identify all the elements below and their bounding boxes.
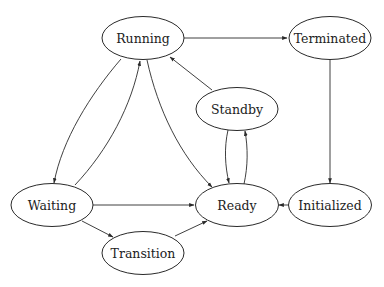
edge-running-ready [147, 60, 212, 187]
edge-running-waiting [54, 59, 121, 183]
node-standby-label: Standby [211, 102, 264, 117]
edge-transition-ready [175, 221, 207, 236]
node-ready[interactable]: Ready [196, 184, 279, 227]
node-running[interactable]: Running [102, 17, 184, 60]
node-running-label: Running [116, 31, 170, 46]
edge-ready-standby [244, 131, 247, 184]
edge-standby-ready [225, 130, 229, 183]
edge-waiting-running [75, 61, 140, 185]
node-waiting-label: Waiting [28, 198, 76, 213]
node-initialized[interactable]: Initialized [289, 184, 372, 227]
node-terminated-label: Terminated [294, 31, 367, 46]
node-initialized-label: Initialized [298, 198, 361, 213]
node-transition-label: Transition [111, 246, 176, 261]
node-standby[interactable]: Standby [196, 88, 278, 131]
node-ready-label: Ready [217, 198, 257, 213]
node-transition[interactable]: Transition [102, 232, 184, 275]
edge-standby-running [170, 57, 212, 90]
state-diagram: Running Terminated Standby Waiting Ready… [0, 0, 384, 287]
node-waiting[interactable]: Waiting [11, 184, 93, 227]
edge-waiting-transition [82, 221, 113, 237]
node-terminated[interactable]: Terminated [289, 17, 371, 60]
